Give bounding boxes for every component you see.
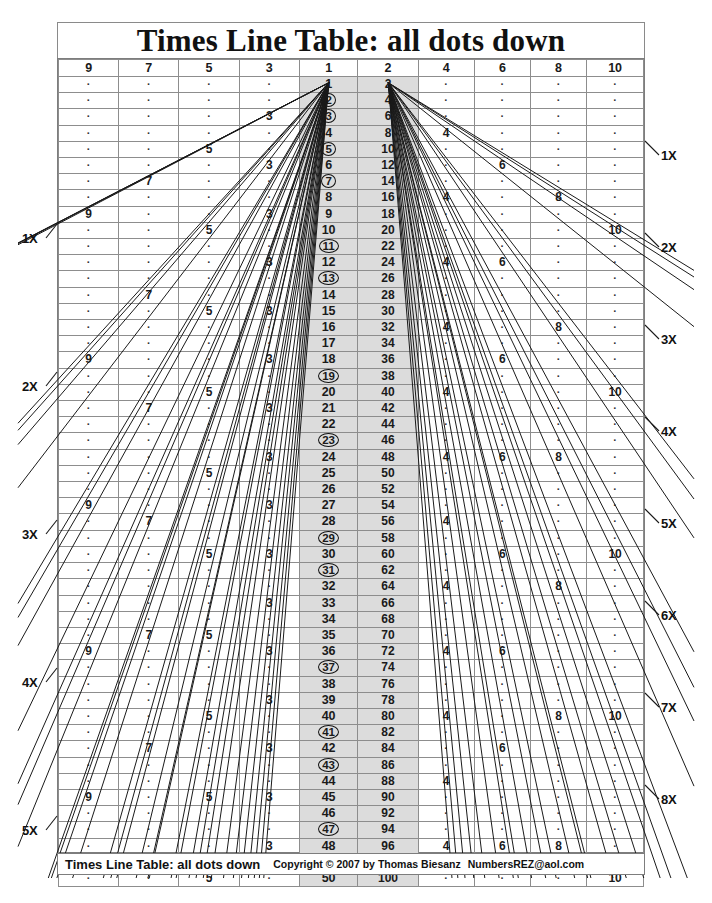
- cell-index-34: 34: [299, 611, 358, 627]
- cell-col7-row1: ·: [119, 77, 179, 93]
- right-multiplier-label-7x: 7X: [661, 700, 676, 715]
- cell-col6-row16: ·: [474, 320, 530, 336]
- cell-col6-row30: 6: [474, 546, 530, 562]
- cell-index-46: 46: [299, 806, 358, 822]
- cell-double-9: 18: [358, 206, 418, 222]
- cell-col3-row2: ·: [239, 93, 299, 109]
- cell-index-20: 20: [299, 384, 358, 400]
- cell-col7-row32: ·: [119, 579, 179, 595]
- table-row: ···33978····: [59, 692, 644, 708]
- right-multiplier-label-8x: 8X: [661, 792, 676, 807]
- cell-col9-row12: ·: [59, 255, 119, 271]
- cell-col3-row6: 3: [239, 158, 299, 174]
- cell-index-17: 17: [299, 336, 358, 352]
- cell-col9-row3: ·: [59, 109, 119, 125]
- cell-col3-row42: 3: [239, 741, 299, 757]
- cell-col6-row39: ·: [474, 692, 530, 708]
- right-multiplier-label-6x: 6X: [661, 608, 676, 623]
- cell-col7-row40: ·: [119, 708, 179, 724]
- cell-double-44: 88: [358, 773, 418, 789]
- circled-prime: 11: [319, 239, 339, 253]
- cell-col4-row19: ·: [418, 368, 474, 384]
- cell-col10-row33: ·: [587, 595, 644, 611]
- cell-col7-row46: ·: [119, 806, 179, 822]
- cell-col5-row25: 5: [179, 465, 239, 481]
- cell-col5-row39: ·: [179, 692, 239, 708]
- cell-col3-row1: ·: [239, 77, 299, 93]
- cell-col8-row34: ·: [530, 611, 586, 627]
- cell-index-42: 42: [299, 741, 358, 757]
- cell-col10-row46: ·: [587, 806, 644, 822]
- cell-col10-row21: ·: [587, 401, 644, 417]
- cell-col10-row17: ·: [587, 336, 644, 352]
- cell-col10-row43: ·: [587, 757, 644, 773]
- cell-col7-row16: ·: [119, 320, 179, 336]
- cell-col5-row13: ·: [179, 271, 239, 287]
- column-header-3: 3: [239, 60, 299, 77]
- cell-col3-row45: 3: [239, 789, 299, 805]
- circled-prime: 23: [318, 433, 339, 447]
- cell-double-45: 90: [358, 789, 418, 805]
- cell-double-43: 86: [358, 757, 418, 773]
- page-canvas: Times Line Table: all dots down 97531246…: [0, 0, 712, 903]
- cell-index-32: 32: [299, 579, 358, 595]
- table-row: 9··32754····: [59, 498, 644, 514]
- column-header-6: 6: [474, 60, 530, 77]
- cell-col5-row31: ·: [179, 563, 239, 579]
- cell-col9-row14: ·: [59, 287, 119, 303]
- cell-col4-row10: ·: [418, 222, 474, 238]
- column-header-5: 5: [179, 60, 239, 77]
- cell-col7-row31: ·: [119, 563, 179, 579]
- cell-col8-row10: ·: [530, 222, 586, 238]
- right-label-leader-5x: [645, 509, 659, 523]
- cell-col6-row42: 6: [474, 741, 530, 757]
- cell-index-40: 40: [299, 708, 358, 724]
- cell-col10-row32: ·: [587, 579, 644, 595]
- cell-col9-row45: 9: [59, 789, 119, 805]
- cell-col10-row34: ·: [587, 611, 644, 627]
- cell-index-25: 25: [299, 465, 358, 481]
- cell-col9-row40: ·: [59, 708, 119, 724]
- cell-col10-row41: ·: [587, 725, 644, 741]
- cell-double-13: 26: [358, 271, 418, 287]
- cell-col8-row31: ·: [530, 563, 586, 579]
- cell-col6-row13: ·: [474, 271, 530, 287]
- cell-col3-row7: ·: [239, 174, 299, 190]
- cell-index-28: 28: [299, 514, 358, 530]
- cell-col10-row31: ·: [587, 563, 644, 579]
- cell-col4-row40: 4: [418, 708, 474, 724]
- cell-col7-row2: ·: [119, 93, 179, 109]
- cell-col7-row19: ·: [119, 368, 179, 384]
- cell-col10-row6: ·: [587, 158, 644, 174]
- cell-col7-row11: ·: [119, 239, 179, 255]
- cell-col6-row43: ·: [474, 757, 530, 773]
- table-row: ····12····: [59, 77, 644, 93]
- cell-col5-row26: ·: [179, 482, 239, 498]
- cell-col5-row36: ·: [179, 644, 239, 660]
- cell-col5-row14: ·: [179, 287, 239, 303]
- cell-col7-row14: 7: [119, 287, 179, 303]
- cell-col3-row9: 3: [239, 206, 299, 222]
- circled-prime: 5: [321, 142, 336, 156]
- cell-col5-row29: ·: [179, 530, 239, 546]
- cell-col8-row40: 8: [530, 708, 586, 724]
- cell-col3-row30: 3: [239, 546, 299, 562]
- circled-prime: 31: [318, 563, 339, 577]
- cell-col8-row36: ·: [530, 644, 586, 660]
- cell-double-16: 32: [358, 320, 418, 336]
- cell-col3-row27: 3: [239, 498, 299, 514]
- cell-col9-row32: ·: [59, 579, 119, 595]
- cell-col8-row22: ·: [530, 417, 586, 433]
- cell-col7-row24: ·: [119, 449, 179, 465]
- cell-col7-row7: 7: [119, 174, 179, 190]
- cell-col8-row23: ·: [530, 433, 586, 449]
- cell-col4-row42: ·: [418, 741, 474, 757]
- cell-double-8: 16: [358, 190, 418, 206]
- cell-col9-row2: ·: [59, 93, 119, 109]
- cell-col7-row3: ·: [119, 109, 179, 125]
- table-row: ·7··714····: [59, 174, 644, 190]
- table-row: ··5·510····: [59, 141, 644, 157]
- cell-col4-row48: 4: [418, 838, 474, 854]
- cell-col10-row23: ·: [587, 433, 644, 449]
- cell-index-3: 3: [299, 109, 358, 125]
